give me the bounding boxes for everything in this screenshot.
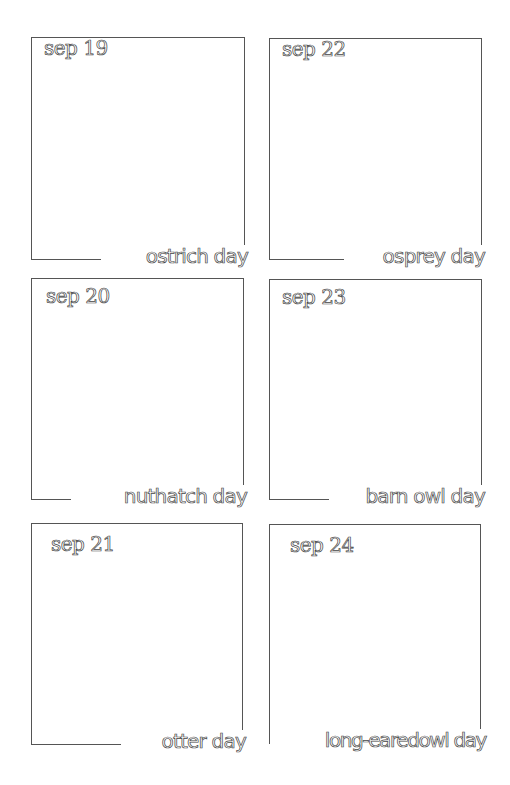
day-box-sep-20: sep 20 nuthatch day [31, 278, 244, 500]
day-caption: ostrich day [145, 245, 248, 267]
bottom-rule [269, 259, 344, 260]
date-label: sep 20 [46, 284, 110, 308]
day-caption: barn owl day [364, 485, 485, 507]
bottom-rule [31, 499, 71, 500]
date-label: sep 24 [290, 533, 354, 557]
day-caption: long-earedowl day [324, 729, 486, 751]
day-caption: nuthatch day [123, 485, 247, 507]
day-box-sep-24: sep 24 long-earedowl day [269, 524, 481, 744]
date-label: sep 19 [44, 36, 108, 60]
day-box-sep-19: sep 19 ostrich day [31, 37, 245, 260]
day-box-sep-23: sep 23 barn owl day [269, 279, 482, 500]
day-caption: otter day [161, 730, 246, 752]
date-label: sep 21 [51, 532, 115, 556]
bottom-rule [269, 499, 329, 500]
day-box-sep-22: sep 22 osprey day [269, 38, 482, 260]
bottom-rule [31, 259, 101, 260]
day-box-sep-21: sep 21 otter day [31, 523, 243, 745]
date-label: sep 23 [282, 285, 346, 309]
bottom-rule [31, 744, 121, 745]
day-caption: osprey day [382, 245, 485, 267]
date-label: sep 22 [282, 37, 346, 61]
